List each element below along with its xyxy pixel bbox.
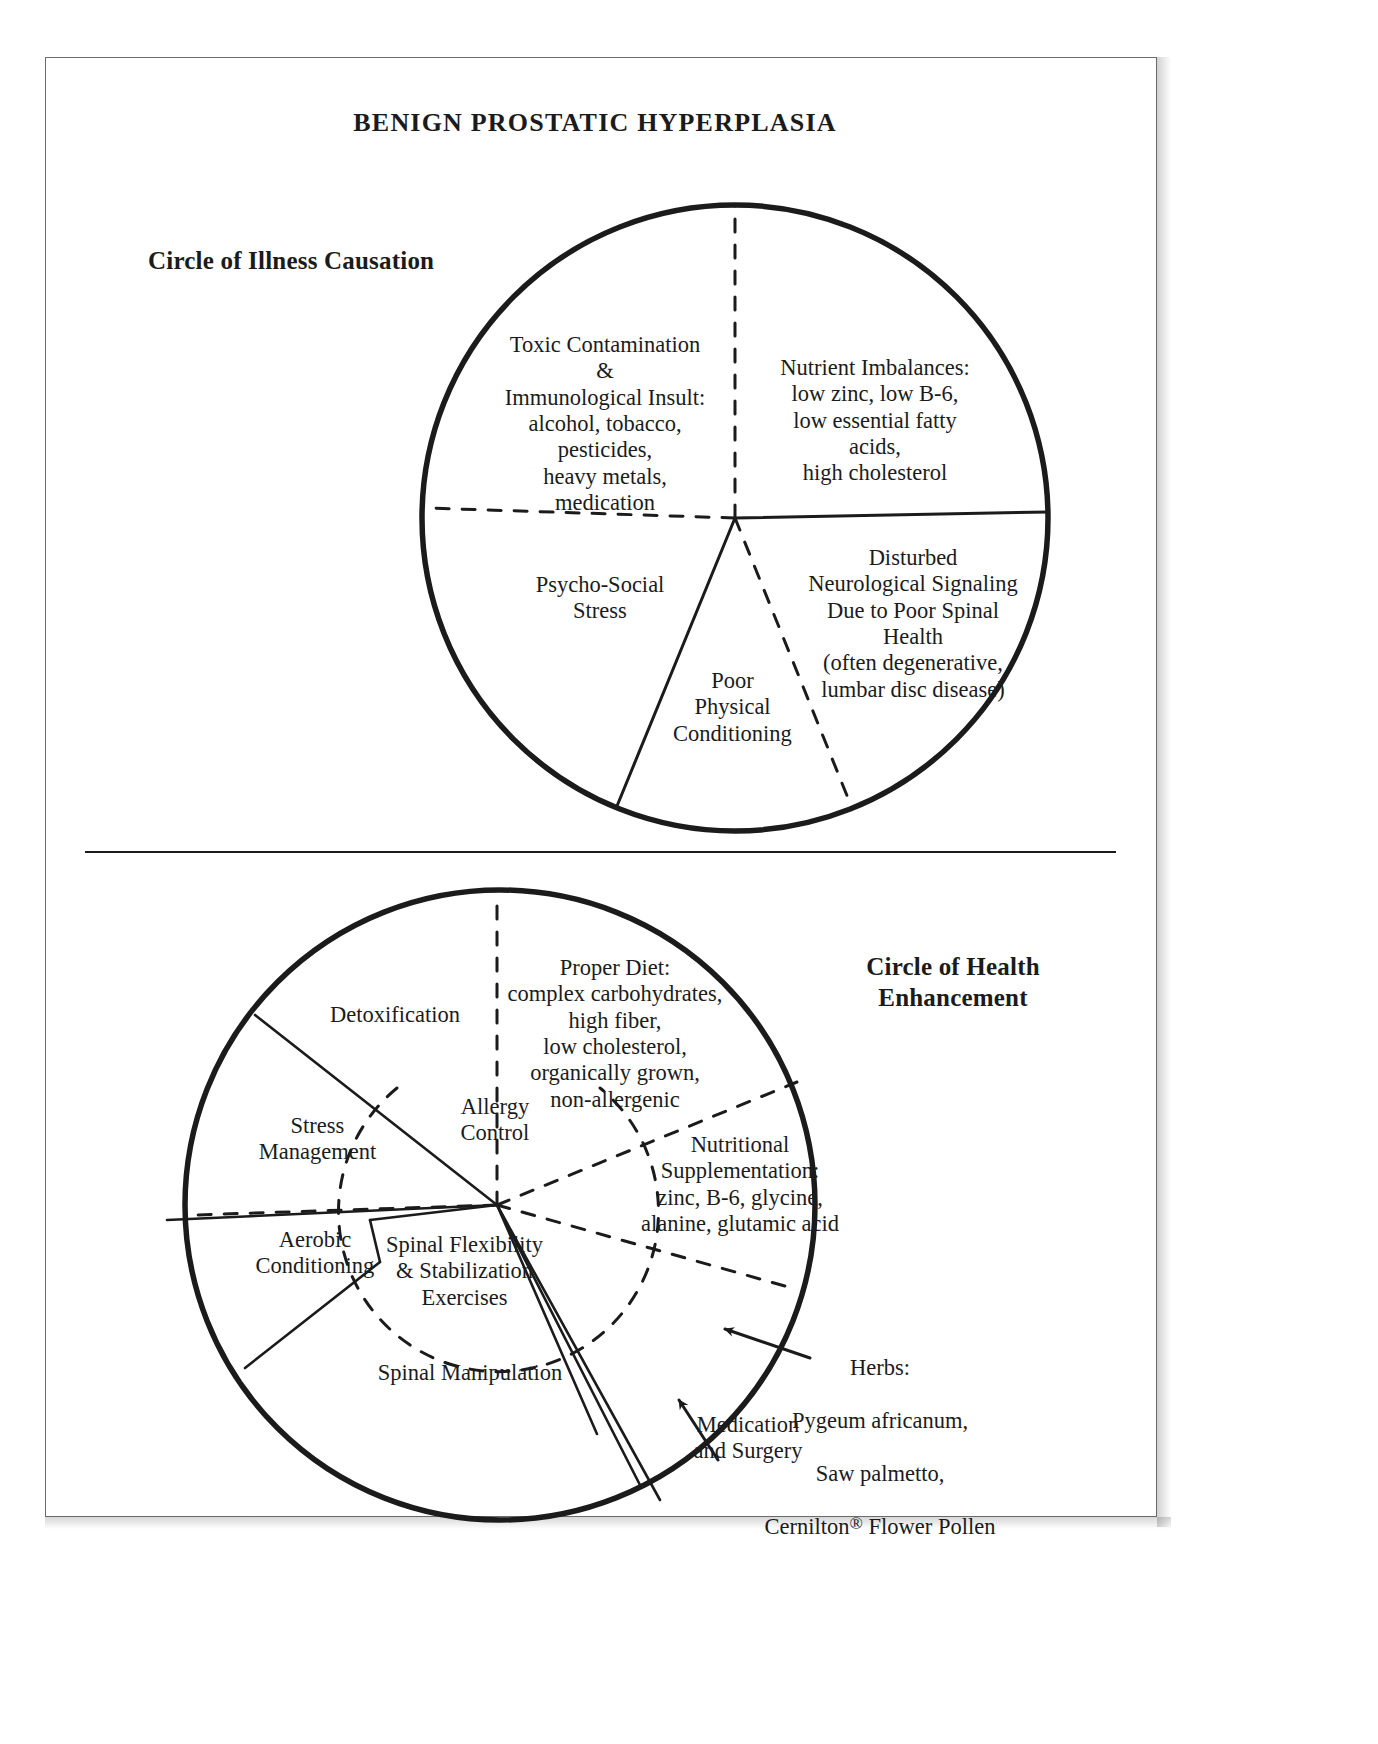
- health-segment-detoxification: Detoxification: [300, 1002, 490, 1028]
- health-segment-spinal-flexibility-exercises: Spinal Flexibility & Stabilization Exerc…: [382, 1232, 547, 1311]
- health-segment-proper-diet: Proper Diet: complex carbohydrates, high…: [500, 955, 730, 1113]
- health-divider-aerobic-solid: [167, 1205, 497, 1220]
- illness-segment-nutrient-imbalances: Nutrient Imbalances: low zinc, low B-6, …: [765, 355, 985, 487]
- scanned-page: BENIGN PROSTATIC HYPERPLASIA Circle of I…: [0, 0, 1378, 1744]
- herbs-line-1: Herbs:: [745, 1355, 1015, 1381]
- illness-segment-toxic-contamination: Toxic Contamination & Immunological Insu…: [500, 332, 710, 516]
- illness-divider-lower-left-solid: [617, 518, 735, 806]
- health-segment-medication-and-surgery: Medication and Surgery: [668, 1412, 828, 1465]
- illness-segment-poor-physical-conditioning: Poor Physical Conditioning: [660, 668, 805, 747]
- health-segment-spinal-manipulation: Spinal Manipulation: [340, 1360, 600, 1386]
- flower-pollen-text: Flower Pollen: [863, 1514, 996, 1539]
- health-segment-stress-management: Stress Management: [245, 1113, 390, 1166]
- herbs-line-4: Cernilton® Flower Pollen: [745, 1513, 1015, 1540]
- health-segment-nutritional-supplementation: Nutritional Supplementation: zinc, B-6, …: [625, 1132, 855, 1237]
- illness-segment-psycho-social-stress: Psycho-Social Stress: [510, 572, 690, 625]
- cernilton-name: Cernilton: [765, 1514, 850, 1539]
- registered-trademark-icon: ®: [850, 1513, 863, 1533]
- health-segment-aerobic-conditioning: Aerobic Conditioning: [240, 1227, 390, 1280]
- illness-segment-disturbed-neurological-signaling: Disturbed Neurological Signaling Due to …: [798, 545, 1028, 703]
- illness-divider-right-solid: [735, 512, 1048, 518]
- health-segment-allergy-control: Allergy Control: [430, 1094, 560, 1147]
